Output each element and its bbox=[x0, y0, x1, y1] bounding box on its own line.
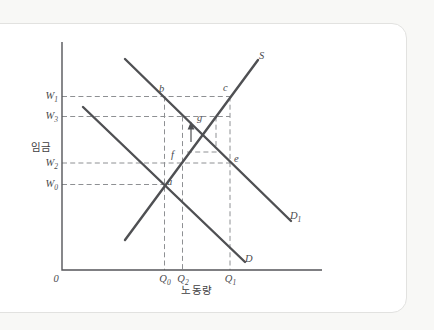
diagram-canvas bbox=[0, 0, 434, 330]
page: { "colors": { "page_bg": "#f8f8f6", "car… bbox=[0, 0, 434, 330]
x-tick-q1: Q1 bbox=[223, 273, 239, 288]
y-axis-label: 임금 bbox=[31, 142, 44, 153]
demand-curve-shifted bbox=[125, 59, 291, 221]
demand-curve-label: D bbox=[245, 253, 253, 268]
origin-label: 0 bbox=[50, 273, 62, 284]
point-label-c: c bbox=[223, 82, 228, 93]
dashed-guides bbox=[62, 97, 230, 271]
point-label-e: e bbox=[234, 153, 239, 164]
y-tick-w3: W3 bbox=[38, 110, 58, 125]
supply-curve-label: S bbox=[259, 50, 264, 65]
y-tick-w2: W2 bbox=[38, 157, 58, 172]
y-tick-w1: W1 bbox=[38, 90, 58, 105]
demand-shifted-curve-label: D1 bbox=[290, 210, 301, 225]
point-label-b: b bbox=[159, 83, 164, 94]
axes bbox=[62, 42, 322, 270]
supply-curve bbox=[125, 60, 258, 240]
point-label-g: g bbox=[197, 112, 202, 123]
y-tick-w0: W0 bbox=[38, 178, 58, 193]
axis-lines bbox=[62, 42, 322, 270]
point-label-f: f bbox=[171, 149, 174, 160]
x-axis-label: 노동량 bbox=[170, 285, 224, 296]
point-label-a: a bbox=[167, 176, 172, 187]
curves bbox=[83, 59, 291, 262]
